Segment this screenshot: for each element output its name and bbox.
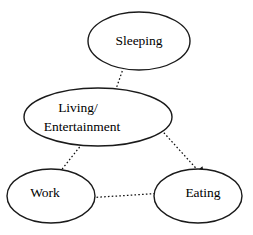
- node-living-entertainment-shape[interactable]: [24, 88, 172, 146]
- node-work-label: Work: [30, 185, 60, 200]
- node-layer: Sleeping Living/ Entertainment Work Eati…: [7, 12, 242, 223]
- node-eating[interactable]: Eating: [154, 169, 242, 223]
- node-sleeping[interactable]: Sleeping: [88, 12, 190, 70]
- node-eating-label: Eating: [185, 185, 220, 200]
- node-sleeping-label: Sleeping: [115, 33, 162, 48]
- diagram-canvas: Sleeping Living/ Entertainment Work Eati…: [0, 0, 253, 235]
- node-living-entertainment-label-line1: Living/: [58, 100, 98, 115]
- activity-transition-diagram: Sleeping Living/ Entertainment Work Eati…: [0, 0, 253, 235]
- node-work[interactable]: Work: [7, 169, 95, 223]
- node-living-entertainment[interactable]: Living/ Entertainment: [24, 88, 172, 146]
- node-living-entertainment-label-line2: Entertainment: [44, 119, 121, 134]
